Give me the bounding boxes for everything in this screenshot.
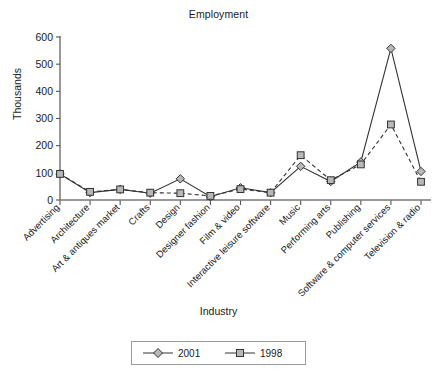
svg-text:500: 500 (35, 58, 53, 70)
plot-area: 0100200300400500600 AdvertisingArchitect… (0, 0, 437, 310)
data-point-1998-10 (357, 161, 364, 168)
legend: 2001 1998 (131, 341, 306, 365)
data-point-1998-0 (57, 171, 64, 178)
svg-text:200: 200 (35, 139, 53, 151)
legend-label-1998: 1998 (260, 348, 282, 359)
svg-text:400: 400 (35, 85, 53, 97)
legend-entry-2001: 2001 (143, 342, 200, 364)
x-tick-label-4: Design (153, 202, 182, 231)
svg-text:100: 100 (35, 167, 53, 179)
x-tick-label-3: Crafts (126, 201, 152, 227)
legend-marker-square-icon (225, 346, 255, 360)
legend-entry-1998: 1998 (225, 342, 282, 364)
employment-line-chart: Employment Thousands Industry 0100200300… (0, 0, 437, 377)
data-point-1998-3 (147, 189, 154, 196)
data-point-1998-6 (237, 186, 244, 193)
legend-marker-diamond-icon (143, 346, 173, 360)
data-point-1998-4 (177, 190, 184, 197)
data-point-1998-2 (117, 186, 124, 193)
svg-text:300: 300 (35, 112, 53, 124)
data-point-1998-8 (297, 152, 304, 159)
data-point-1998-5 (207, 193, 214, 200)
data-point-1998-7 (267, 189, 274, 196)
axis-lines (59, 36, 431, 200)
data-point-2001-11 (387, 44, 395, 52)
x-tick-label-5: Designer fashion (154, 202, 212, 260)
y-axis-ticks: 0100200300400500600 (35, 31, 60, 206)
data-point-2001-12 (417, 167, 425, 175)
data-point-1998-11 (388, 121, 395, 128)
data-point-1998-12 (418, 178, 425, 185)
data-point-1998-9 (327, 177, 334, 184)
data-point-2001-4 (176, 175, 184, 183)
data-point-1998-1 (87, 188, 94, 195)
x-tick-label-8: Music (277, 201, 302, 226)
x-tick-label-12: Television & radio (362, 202, 422, 262)
x-axis-tick-labels: AdvertisingArchitectureArt & antiques ma… (20, 201, 422, 298)
svg-text:600: 600 (35, 31, 53, 43)
data-series (56, 44, 425, 201)
legend-label-2001: 2001 (178, 348, 200, 359)
